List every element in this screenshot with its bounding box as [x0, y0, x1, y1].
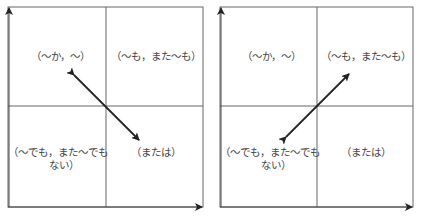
- right-diagram: [220, 7, 413, 207]
- left-bottom-left-label-line2: ない）: [8, 159, 120, 172]
- left-bottom-left-label-line1: （〜でも，また〜でも: [8, 146, 106, 159]
- right-bottom-left-label-line1: （〜でも，また〜でも: [220, 146, 318, 159]
- left-top-left-label: （〜か，〜）: [30, 50, 90, 63]
- right-top-left-label: （〜か，〜）: [240, 50, 302, 63]
- right-top-right-label: （〜も，また〜も）: [318, 50, 413, 63]
- left-bottom-right-label: （または）: [116, 146, 196, 159]
- left-top-right-label: （〜も，また〜も）: [108, 50, 203, 63]
- diagrams-canvas: [0, 0, 421, 216]
- right-bottom-left-label-line2: ない）: [220, 159, 332, 172]
- left-diagram: [8, 7, 203, 207]
- right-bottom-right-label: （または）: [326, 146, 406, 159]
